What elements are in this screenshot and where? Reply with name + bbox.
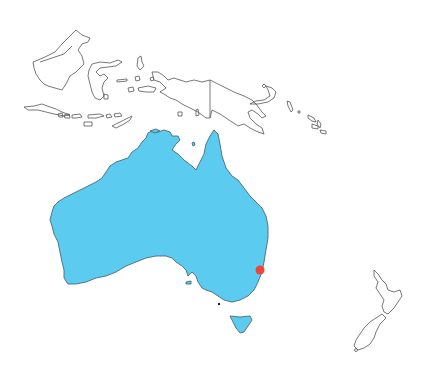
- sumbawa-outline: [72, 114, 82, 118]
- island-8: [178, 112, 182, 116]
- solomon-1: [298, 111, 300, 113]
- solomon-2: [308, 115, 316, 122]
- island-3: [128, 87, 134, 92]
- island-6: [114, 113, 122, 117]
- solomon-5: [320, 130, 326, 134]
- tasmania: [230, 316, 252, 333]
- king-island-dot: [218, 303, 220, 305]
- new-ireland-outline: [262, 84, 266, 88]
- new-zealand-south-island: [354, 314, 386, 350]
- timor-outline: [112, 116, 132, 128]
- groote-eylandt: [192, 142, 195, 146]
- new-zealand-north-island: [374, 270, 402, 314]
- bougainville-outline: [287, 101, 293, 112]
- halmahera-outline: [137, 56, 144, 70]
- stewart-island: [355, 349, 358, 352]
- borneo-outline: [33, 30, 90, 90]
- java-outline: [24, 104, 70, 116]
- new-britain-outline: [250, 86, 276, 104]
- island-5: [106, 114, 112, 118]
- kangaroo-island: [186, 281, 191, 284]
- location-marker: [256, 266, 265, 275]
- flores-outline: [88, 114, 104, 118]
- island-1: [117, 79, 127, 82]
- island-2: [135, 76, 140, 81]
- australia-mainland: [50, 130, 268, 302]
- oceania-map: [0, 0, 425, 371]
- new-guinea-outline: [152, 72, 266, 134]
- seram-outline: [138, 86, 156, 92]
- sumba-outline: [84, 122, 92, 126]
- sulawesi-bay: [104, 94, 108, 99]
